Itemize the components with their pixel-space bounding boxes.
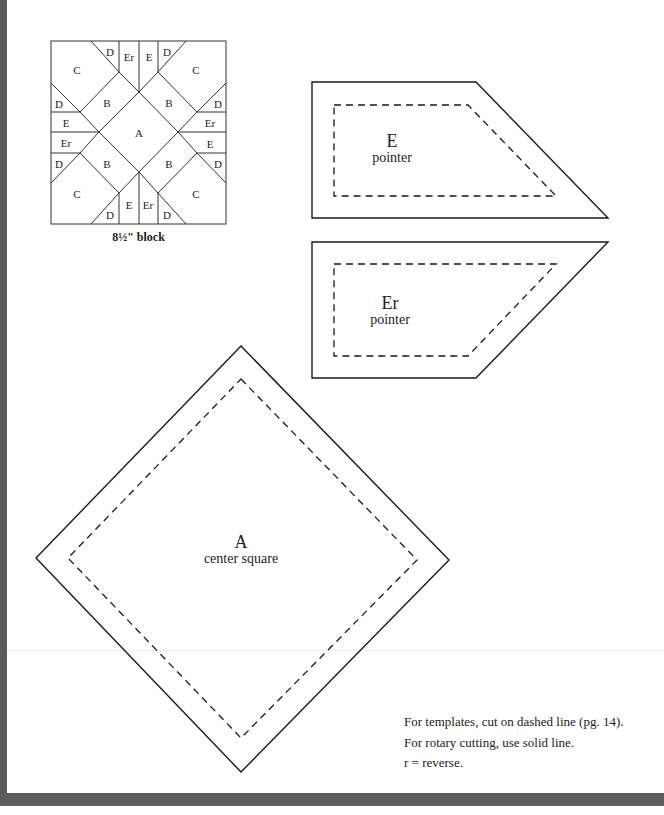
er-template-name: pointer — [350, 312, 430, 328]
svg-text:Er: Er — [61, 137, 72, 149]
svg-text:B: B — [103, 158, 110, 170]
svg-text:C: C — [73, 188, 80, 200]
svg-text:D: D — [55, 98, 63, 110]
svg-text:D: D — [163, 46, 171, 58]
e-template-label: E pointer — [352, 132, 432, 166]
note-rotary: For rotary cutting, use solid line. — [404, 733, 624, 754]
svg-text:A: A — [135, 127, 143, 139]
e-template-letter: E — [352, 132, 432, 150]
note-reverse: r = reverse. — [404, 753, 624, 774]
a-template-label: A center square — [181, 533, 301, 567]
svg-text:D: D — [55, 158, 63, 170]
svg-text:D: D — [163, 209, 171, 221]
pattern-artwork: A B B B B C C C C D D D D D D D D Er E E… — [0, 0, 664, 815]
cutting-notes: For templates, cut on dashed line (pg. 1… — [404, 712, 624, 774]
svg-text:C: C — [192, 64, 199, 76]
svg-text:B: B — [165, 97, 172, 109]
er-template-letter: Er — [350, 294, 430, 312]
svg-text:E: E — [146, 51, 153, 63]
svg-text:E: E — [126, 199, 133, 211]
svg-text:C: C — [73, 64, 80, 76]
a-template-letter: A — [181, 533, 301, 551]
note-templates: For templates, cut on dashed line (pg. 1… — [404, 712, 624, 733]
svg-text:E: E — [63, 117, 70, 129]
pattern-page: A B B B B C C C C D D D D D D D D Er E E… — [0, 0, 664, 815]
e-template-name: pointer — [352, 150, 432, 166]
svg-text:D: D — [106, 46, 114, 58]
svg-text:D: D — [106, 209, 114, 221]
svg-text:C: C — [192, 188, 199, 200]
svg-text:Er: Er — [124, 51, 135, 63]
svg-text:Er: Er — [205, 117, 216, 129]
er-template-label: Er pointer — [350, 294, 430, 328]
svg-text:B: B — [103, 97, 110, 109]
svg-text:D: D — [214, 158, 222, 170]
svg-text:D: D — [214, 98, 222, 110]
svg-text:Er: Er — [143, 199, 154, 211]
block-caption: 8½" block — [51, 230, 226, 245]
svg-text:B: B — [165, 158, 172, 170]
svg-text:E: E — [207, 138, 214, 150]
a-template-name: center square — [181, 551, 301, 567]
